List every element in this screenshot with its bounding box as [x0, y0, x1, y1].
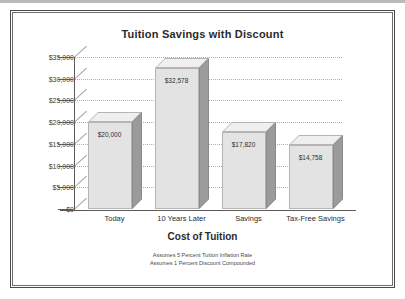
y-axis-tick-mark — [58, 100, 73, 101]
bar-side-face — [266, 122, 276, 209]
chart-footnotes: Assumes 5 Percent Tuition Inflation Rate… — [0, 251, 405, 267]
bar-side-face — [199, 58, 209, 209]
bar-value-label: $14,758 — [289, 154, 333, 161]
bar-value-label: $20,000 — [88, 131, 132, 138]
bar: $17,820 — [222, 132, 266, 209]
bar: $32,578 — [155, 68, 199, 209]
bar: $14,758 — [289, 145, 333, 209]
y-axis-tick-mark — [58, 187, 73, 188]
plot-area: $20,000$32,578$17,820$14,758 — [74, 57, 342, 209]
x-axis-category-label: Tax-Free Savings — [286, 214, 344, 223]
x-axis-category-label: 10 Years Later — [157, 214, 205, 223]
scan-edge-artifact — [0, 0, 405, 3]
y-axis-tick-mark — [58, 144, 73, 145]
x-axis-title: Cost of Tuition — [0, 231, 405, 242]
bar-value-label: $32,578 — [155, 77, 199, 84]
footnote-line: Assumes 5 Percent Tuition Inflation Rate — [0, 251, 405, 259]
x-axis-category-label: Savings — [235, 214, 262, 223]
bar: $20,000 — [88, 122, 132, 209]
bar-side-face — [132, 112, 142, 209]
y-axis-tick-mark — [58, 57, 73, 58]
chart-figure: Tuition Savings with Discount $20,000$32… — [0, 0, 405, 299]
footnote-line: Assumes 1 Percent Discount Compounded — [0, 259, 405, 267]
y-axis-line — [74, 57, 75, 210]
y-axis-tick-mark — [58, 122, 73, 123]
bar-side-face — [333, 135, 343, 209]
y-axis-tick-mark — [58, 79, 73, 80]
x-axis-category-label: Today — [104, 214, 124, 223]
x-axis-line — [60, 210, 356, 211]
bar-value-label: $17,820 — [222, 141, 266, 148]
y-axis-tick-mark — [58, 166, 73, 167]
chart-title: Tuition Savings with Discount — [0, 28, 405, 40]
bar-front-face — [155, 68, 199, 209]
